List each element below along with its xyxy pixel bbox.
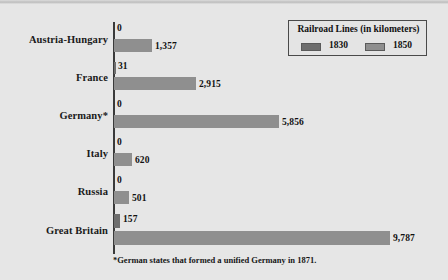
value-label-1830-france: 31 bbox=[118, 61, 128, 71]
value-label-1830-germany: 0 bbox=[117, 99, 122, 109]
value-label-1850-germany: 5,856 bbox=[282, 117, 304, 127]
bar-1830-france bbox=[114, 62, 116, 74]
bar-1850-great-britain bbox=[114, 231, 390, 245]
category-label-austria-hungary: Austria-Hungary bbox=[0, 34, 108, 45]
railroad-lines-bar-chart: Austria-Hungary 0 1,357 France 31 2,915 … bbox=[0, 0, 448, 280]
bar-row: France 31 2,915 bbox=[0, 60, 448, 96]
category-label-germany: Germany* bbox=[0, 110, 108, 121]
legend-label-1830: 1830 bbox=[329, 40, 348, 50]
bar-1830-great-britain bbox=[114, 214, 120, 228]
bar-row: Great Britain 157 9,787 bbox=[0, 212, 448, 252]
legend-label-1850: 1850 bbox=[393, 40, 412, 50]
top-edge-band bbox=[0, 0, 448, 4]
value-label-1830-austria-hungary: 0 bbox=[117, 23, 122, 33]
bar-row: Russia 0 501 bbox=[0, 174, 448, 210]
bar-row: Germany* 0 5,856 bbox=[0, 98, 448, 134]
bar-1850-russia bbox=[114, 191, 129, 204]
value-label-1850-austria-hungary: 1,357 bbox=[155, 41, 177, 51]
category-label-france: France bbox=[0, 72, 108, 83]
bar-row: Italy 0 620 bbox=[0, 136, 448, 172]
value-label-1830-great-britain: 157 bbox=[123, 214, 138, 224]
bar-1850-france bbox=[114, 77, 196, 90]
bar-1850-austria-hungary bbox=[114, 39, 152, 52]
value-label-1850-russia: 501 bbox=[132, 193, 147, 203]
legend-swatch-1830-icon bbox=[301, 43, 321, 51]
category-label-russia: Russia bbox=[0, 186, 108, 197]
value-label-1850-great-britain: 9,787 bbox=[393, 233, 415, 243]
category-label-italy: Italy bbox=[0, 148, 108, 159]
legend: Railroad Lines (in kilometers) 1830 1850 bbox=[288, 20, 427, 56]
category-label-great-britain: Great Britain bbox=[0, 225, 108, 236]
bar-1850-italy bbox=[114, 153, 132, 166]
value-label-1830-russia: 0 bbox=[117, 175, 122, 185]
value-label-1830-italy: 0 bbox=[117, 137, 122, 147]
legend-swatch-1850-icon bbox=[365, 43, 385, 51]
value-label-1850-italy: 620 bbox=[135, 155, 150, 165]
value-label-1850-france: 2,915 bbox=[199, 79, 221, 89]
bar-1850-germany bbox=[114, 115, 279, 128]
legend-title: Railroad Lines (in kilometers) bbox=[289, 24, 428, 34]
footnote: *German states that formed a unified Ger… bbox=[113, 255, 413, 265]
